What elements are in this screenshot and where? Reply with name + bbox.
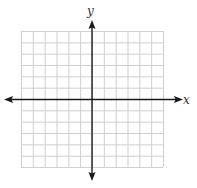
- x-axis-label: x: [183, 93, 190, 107]
- coordinate-plane: y x: [0, 0, 197, 188]
- x-axis: [4, 96, 183, 103]
- y-axis-label: y: [86, 4, 94, 18]
- y-axis: [89, 20, 96, 181]
